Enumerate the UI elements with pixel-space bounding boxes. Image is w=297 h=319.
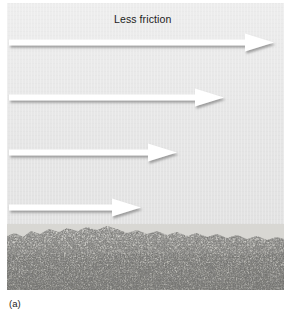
friction-arrow-3: [9, 143, 184, 165]
rough-surface: [7, 224, 284, 290]
less-friction-label: Less friction: [114, 13, 171, 25]
friction-figure: Less friction More friction: [0, 0, 297, 319]
rough-surface-texture: [7, 224, 284, 290]
friction-arrow-2: [9, 88, 231, 110]
friction-arrow-1: [9, 33, 277, 55]
figure-caption: (a): [9, 298, 21, 309]
friction-arrow-4: [9, 198, 148, 220]
